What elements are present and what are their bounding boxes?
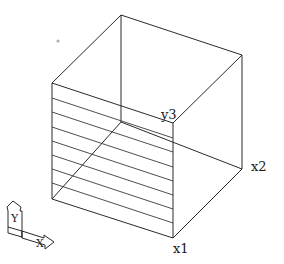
ucs-x-label: X [36, 237, 44, 250]
cad-viewport[interactable]: y3 x2 x1 Y X [0, 0, 284, 264]
cube-wireframe [52, 15, 242, 238]
edge-top-left [52, 15, 121, 83]
label-x1: x1 [173, 241, 189, 256]
cube-drawing: y3 x2 x1 Y X [0, 0, 284, 264]
edge-top-right [173, 55, 242, 123]
label-x2: x2 [251, 159, 267, 174]
ucs-icon: Y X [7, 201, 54, 250]
ucs-y-label: Y [10, 212, 19, 225]
edge-bottom-right [173, 169, 242, 238]
stray-dot [56, 39, 59, 42]
edge-top-front [52, 83, 173, 123]
label-y3: y3 [160, 107, 177, 122]
edge-top-back [121, 15, 242, 55]
edge-bottom-front [52, 199, 173, 238]
edge-bottom-back [121, 122, 242, 169]
